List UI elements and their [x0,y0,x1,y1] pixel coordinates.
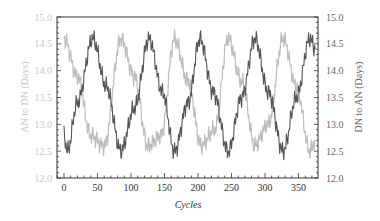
x-tick-label: 250 [224,182,239,193]
left-y-tick-label: 13.5 [35,92,53,103]
right-y-tick-label: 14.5 [326,38,344,49]
x-tick-label: 150 [157,182,172,193]
dn-to-an-series-line [64,31,315,160]
right-y-tick-label: 15.0 [326,12,344,23]
right-axis-title: DN to AN (Days) [353,62,365,133]
right-y-tick-label: 12.0 [326,173,344,184]
x-tick-label: 300 [258,182,273,193]
left-y-tick-label: 14.0 [35,65,53,76]
x-axis-title: Cycles [175,199,202,210]
x-axis-tick-labels: 050100150200250300350 [62,182,307,193]
left-y-tick-label: 13.0 [35,119,53,130]
x-tick-label: 50 [93,182,103,193]
left-axis-title: AN to DN (Days) [19,61,31,132]
left-y-tick-label: 12.5 [35,146,53,157]
right-y-tick-label: 12.5 [326,146,344,157]
right-axis-tick-labels: 12.012.513.013.514.014.515.0 [326,12,344,184]
an-to-dn-series-line [64,30,315,158]
x-tick-label: 350 [291,182,306,193]
series-layer [64,30,315,160]
left-y-tick-label: 15.0 [35,12,53,23]
left-y-tick-label: 12.0 [35,173,53,184]
x-tick-label: 100 [124,182,139,193]
x-tick-label: 0 [62,182,67,193]
right-y-tick-label: 13.5 [326,92,344,103]
right-y-tick-label: 14.0 [326,65,344,76]
left-axis-tick-labels: 12.012.513.013.514.014.515.0 [35,12,53,184]
x-tick-label: 200 [191,182,206,193]
left-y-tick-label: 14.5 [35,38,53,49]
dual-axis-line-chart: 12.012.513.013.514.014.515.0 12.012.513.… [0,0,380,221]
right-y-tick-label: 13.0 [326,119,344,130]
